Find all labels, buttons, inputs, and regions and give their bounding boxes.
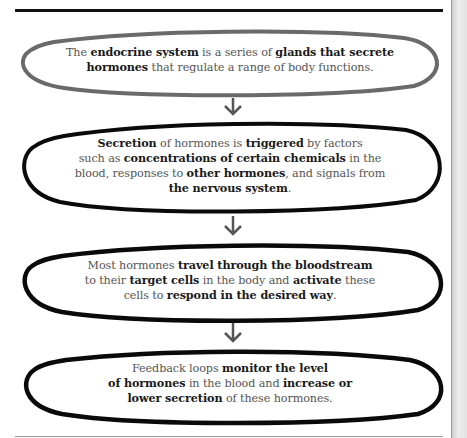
step-2-text: Secretion of hormones is triggered by fa… [14, 136, 446, 196]
bold-phrase: activate [293, 273, 342, 287]
bold-phrase: the nervous system [169, 181, 288, 195]
step-3-text: Most hormones travel through the bloodst… [14, 258, 446, 303]
top-rule [15, 9, 443, 12]
text-phrase: blood, responses to [75, 167, 187, 180]
bold-phrase: target cells [129, 273, 199, 287]
bold-phrase: other hormones [187, 166, 286, 180]
bold-phrase: increase or [283, 376, 352, 390]
text-phrase: such as [79, 152, 124, 165]
text-phrase: The [66, 46, 90, 59]
bottom-rule [15, 436, 443, 437]
bold-phrase: respond in the desired way [167, 288, 333, 302]
step-1-text: The endocrine system is a series of glan… [14, 45, 446, 75]
text-phrase: of hormones is [157, 137, 246, 150]
text-phrase: is a series of [199, 46, 276, 59]
text-phrase: , and signals from [285, 167, 385, 180]
step-1-bubble: The endocrine system is a series of glan… [14, 24, 446, 100]
step-3-bubble: Most hormones travel through the bloodst… [14, 238, 446, 324]
step-4-bubble: Feedback loops monitor the levelof hormo… [14, 344, 446, 426]
text-phrase: of these hormones. [222, 392, 332, 405]
text-phrase: by factors [304, 137, 363, 150]
bold-phrase: Secretion [97, 136, 156, 150]
bold-phrase: hormones [87, 60, 149, 74]
page-edge-strip [451, 0, 467, 438]
bold-phrase: concentrations of certain chemicals [124, 151, 346, 165]
bold-phrase: triggered [246, 136, 304, 150]
text-phrase: in the body and [199, 274, 293, 287]
text-phrase: Most hormones [88, 259, 178, 272]
text-phrase: to their [85, 274, 130, 287]
text-phrase: in the [346, 152, 382, 165]
bold-phrase: lower secretion [127, 391, 222, 405]
text-phrase: these [342, 274, 376, 287]
text-phrase: . [333, 289, 336, 302]
text-phrase: in the blood and [185, 377, 283, 390]
bold-phrase: of hormones [108, 376, 185, 390]
page: The endocrine system is a series of glan… [0, 0, 451, 438]
bold-phrase: endocrine system [90, 45, 198, 59]
bold-phrase: monitor the level [222, 361, 328, 375]
step-4-text: Feedback loops monitor the levelof hormo… [14, 361, 446, 406]
text-phrase: cells to [124, 289, 167, 302]
text-phrase: . [288, 182, 291, 195]
bold-phrase: travel through the bloodstream [178, 258, 372, 272]
bold-phrase: glands that secrete [275, 45, 394, 59]
text-phrase: that regulate a range of body functions. [148, 61, 373, 74]
text-phrase: Feedback loops [132, 362, 222, 375]
step-2-bubble: Secretion of hormones is triggered by fa… [14, 116, 446, 218]
